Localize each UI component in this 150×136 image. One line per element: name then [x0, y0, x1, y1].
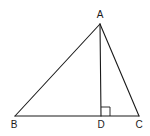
label-point-d: D: [97, 119, 104, 130]
label-point-b: B: [11, 119, 18, 130]
altitude-ad: [100, 24, 101, 116]
triangle-diagram: A B C D: [0, 0, 150, 136]
right-angle-marker: [101, 107, 110, 116]
side-ac: [100, 24, 139, 116]
side-ab: [15, 24, 100, 116]
label-point-c: C: [135, 119, 142, 130]
label-point-a: A: [97, 9, 104, 20]
